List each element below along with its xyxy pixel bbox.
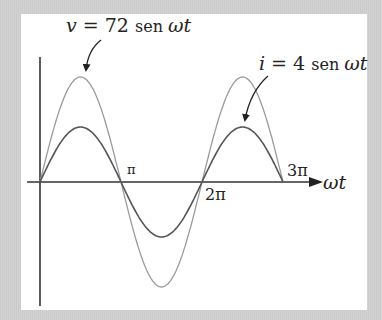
x-axis-label: ωt	[323, 171, 346, 193]
tick-label-3pi: 3π	[287, 161, 308, 180]
current-label: i = 4 sen ωt	[259, 52, 368, 74]
voltage-label: v = 72 sen ωt	[66, 14, 192, 36]
tick-label-2pi: 2π	[205, 185, 226, 204]
voltage-arrow	[86, 40, 101, 70]
tick-label-pi: π	[127, 162, 136, 177]
sine-wave-diagram: v = 72 sen ωt i = 4 sen ωt π 2π 3π ωt	[0, 0, 382, 320]
